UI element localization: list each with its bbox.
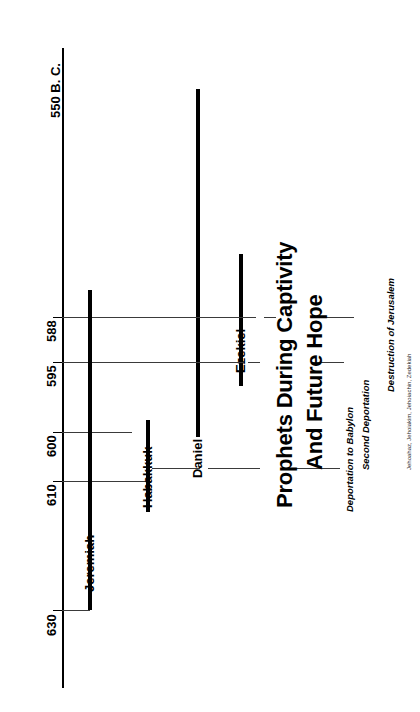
annotation-second-deportation: Second Deportation [360,380,371,470]
grid-line-600 [62,432,132,433]
axis-tick-label-630: 630 [44,614,59,636]
bar-label-daniel: Daniel [190,439,205,478]
bar-label-jeremiah: Jeremiah [82,535,97,592]
annotation-kings-of-judah: Jehoahaz, Jehoiakim, Jehoiachin, Zedekia… [406,354,412,470]
timeline-chart: 550 B. C. 588 595 600 610 630 Jeremiah H… [0,0,420,712]
connector-595-right [196,362,244,363]
grid-line-630 [62,610,90,611]
axis-tick-label-588: 588 [44,320,59,342]
grid-line-588 [62,317,206,318]
axis-tick-label-610: 610 [44,484,59,506]
axis-tick-label-550: 550 B. C. [48,63,63,118]
bar-daniel [196,89,200,437]
grid-line-610 [62,481,148,482]
connector-605-left [152,468,200,469]
connector-588-right [196,317,256,318]
axis-tick-label-600: 600 [44,435,59,457]
time-axis-line [62,48,64,688]
annotation-destruction-of-jerusalem: Destruction of Jerusalem [385,278,396,392]
connector-595-stub [248,362,260,363]
page-title-line-2: And Future Hope [302,295,328,470]
bar-label-habakkuk: Habakkuk [140,447,155,508]
bar-label-ezekiel: Ezekiel [233,329,248,373]
axis-tick-label-595: 595 [44,365,59,387]
page-title-line-1: Prophets During Captivity [272,242,298,508]
annotation-deportation-to-babylon: Deportation to Babylon [344,407,355,512]
connector-605-right [208,468,260,469]
